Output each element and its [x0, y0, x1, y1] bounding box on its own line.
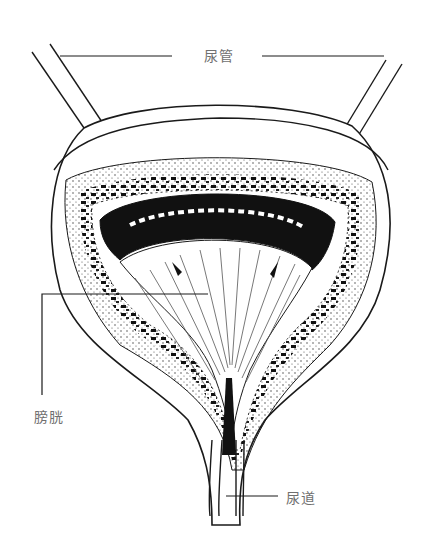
bladder-label: 膀胱 — [34, 406, 64, 426]
urethra-label: 尿道 — [286, 487, 316, 507]
ureter-label: 尿管 — [204, 45, 234, 65]
right-ureter — [346, 60, 402, 136]
bladder-illustration — [0, 0, 426, 559]
